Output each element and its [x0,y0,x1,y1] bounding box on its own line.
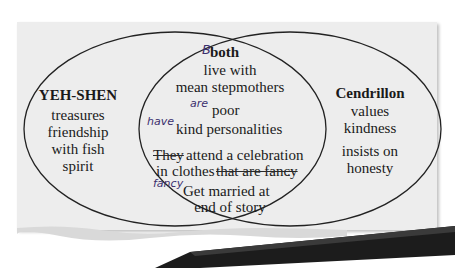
left-item: spirit [38,158,118,174]
center-line: live with [160,62,300,78]
right-title: Cendrillon [330,85,410,101]
torn-edge [17,226,347,240]
edit-insert-fancy: fancy [153,178,183,189]
left-item: friendship [38,124,118,140]
struck-text: They [153,147,184,163]
right-item: insists on [330,143,410,159]
center-line: mean stepmothers [160,79,300,95]
right-item: honesty [330,160,410,176]
edit-insert-have: have [147,116,174,127]
center-line: Get married at [183,183,270,199]
center-line: kind personalities [176,121,282,137]
left-item: treasures [38,107,118,123]
edit-insert-are: are [190,98,208,109]
right-item: kindness [330,120,410,136]
center-line: end of story [180,199,280,215]
center-line: . [287,163,291,179]
center-title: both [210,44,250,60]
left-title: YEH-SHEN [38,87,118,103]
center-line: attend a celebration [186,147,303,163]
left-item: with fish [38,141,118,157]
right-item: values [330,103,410,119]
center-line: poor [212,102,240,118]
struck-text: that are fancy [216,163,298,179]
